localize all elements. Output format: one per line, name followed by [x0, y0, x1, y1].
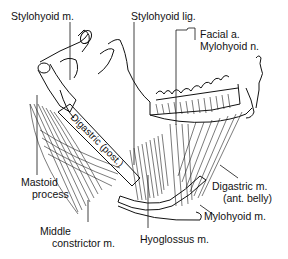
- label-facial-artery: Facial a.: [200, 28, 240, 40]
- label-hyoglossus-muscle: Hyoglossus m.: [140, 233, 209, 245]
- skull-base-outline: [40, 28, 94, 78]
- mandible-hatching: [156, 94, 230, 114]
- hyoglossus-fibers: [130, 134, 168, 200]
- label-mylohyoid-muscle: Mylohyoid m.: [204, 210, 266, 222]
- anatomical-figure: Digastric (post.): [0, 0, 288, 259]
- label-mastoid-line2: process: [32, 188, 69, 200]
- label-middle-constrictor-line1: Middle: [40, 225, 71, 237]
- label-mastoid-line1: Mastoid: [21, 176, 58, 188]
- digastric-posterior-inline-label: Digastric (post.): [69, 112, 126, 169]
- label-stylohyoid-muscle: Stylohyoid m.: [11, 10, 74, 22]
- hyoid-bone: [118, 176, 206, 220]
- label-stylohyoid-ligament: Stylohyoid lig.: [131, 10, 196, 22]
- label-mylohyoid-nerve: Mylohyoid n.: [200, 40, 259, 52]
- label-digastric-anterior-line2: (ant. belly): [223, 192, 272, 204]
- label-middle-constrictor-line2: constrictor m.: [52, 237, 115, 249]
- digastric-posterior-belly: Digastric (post.): [58, 104, 140, 186]
- label-digastric-anterior-line1: Digastric m.: [212, 180, 267, 192]
